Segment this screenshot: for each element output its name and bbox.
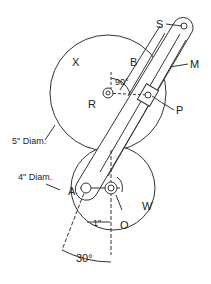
- offset-dimension-label: 1": [93, 218, 101, 228]
- label-r: R: [88, 98, 96, 110]
- label-s: S: [156, 18, 163, 30]
- label-p: P: [176, 104, 183, 116]
- pin-a: [81, 183, 91, 193]
- label-o: O: [120, 219, 129, 231]
- angle-90-label: 90°: [115, 77, 129, 87]
- large-wheel-diameter-label: 5" Diam.: [12, 136, 46, 146]
- label-b: B: [130, 56, 137, 68]
- pivot-o: [105, 182, 117, 194]
- label-a: A: [68, 185, 76, 197]
- label-w: W: [142, 200, 153, 212]
- pin-p: [145, 92, 151, 98]
- small-wheel-diameter-label: 4" Diam.: [18, 172, 52, 182]
- pivot-r: [103, 88, 113, 98]
- angle-30-label: 30°: [76, 252, 93, 264]
- label-x: X: [72, 56, 80, 68]
- mechanism-diagram: S X B M R P A O W 5" Diam. 4" Diam. 1" 9…: [0, 0, 211, 284]
- label-m: M: [190, 58, 199, 70]
